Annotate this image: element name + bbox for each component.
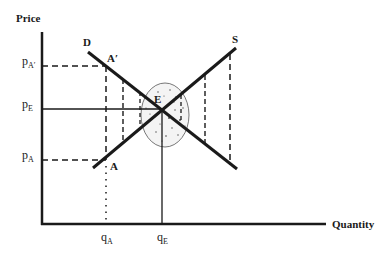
tick-q-e: qE (157, 230, 168, 246)
tick-p-a: pA (22, 148, 34, 164)
point-e-label: E (154, 93, 161, 105)
point-a-label: A (110, 160, 118, 172)
y-axis-label: Price (16, 12, 41, 24)
supply-label: S (232, 33, 238, 45)
tick-q-a: qA (101, 230, 113, 246)
demand-label: D (83, 36, 91, 48)
x-axis-label: Quantity (332, 218, 375, 230)
tick-p-a-prime: pA′ (22, 54, 36, 70)
point-a-prime-label: A′ (107, 52, 118, 64)
tick-p-e: pE (22, 97, 33, 113)
supply-demand-diagram: Price Quantity D S A′ E A pA′ p (0, 0, 387, 258)
